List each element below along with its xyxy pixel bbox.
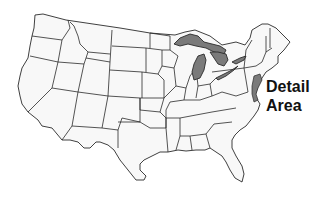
label-line-1: Detail: [266, 77, 310, 96]
detail-area-label: Detail Area: [266, 77, 310, 115]
label-line-2: Area: [266, 96, 310, 115]
detail-area-region: [252, 74, 262, 102]
